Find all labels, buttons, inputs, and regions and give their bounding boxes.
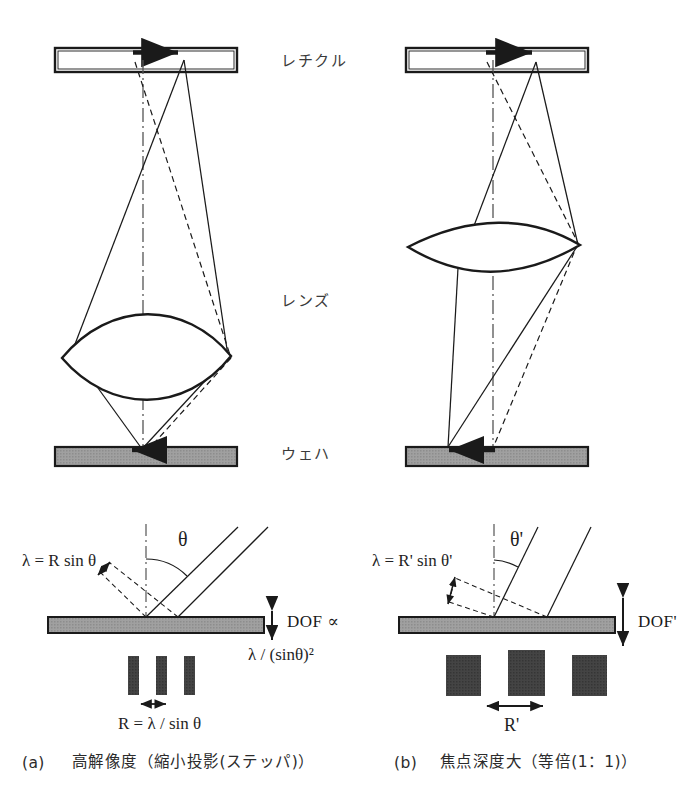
panel-b-optical-train (406, 48, 588, 466)
resolution-formula-a: R = λ / sin θ (118, 715, 201, 732)
ray-dashed-upper-b (487, 62, 578, 243)
lens-b (408, 223, 580, 272)
angle-symbol-b: θ' (510, 529, 523, 549)
lambda-arrow-a (98, 562, 110, 575)
formula-wavelength-b: λ = R' sin θ' (372, 552, 452, 569)
wavefront-dash-2-a (110, 563, 178, 617)
caption-index-a: (a) (22, 756, 45, 772)
pattern-bar (156, 656, 167, 695)
ray-solid-left-a (72, 60, 184, 352)
pattern-bar (128, 656, 139, 695)
wavefront-dash-1-a (100, 572, 146, 617)
figure-root: レチクル レンズ ウェハ λ = R sin θ θ DOF ∝ λ / (si… (0, 0, 694, 797)
dof-label-b: DOF' (638, 613, 677, 630)
pattern-bar (446, 655, 481, 696)
dof-expression-a: λ / (sinθ)² (248, 646, 314, 663)
angle-symbol-a: θ (178, 529, 188, 549)
resolution-formula-b: R' (504, 716, 519, 734)
component-label-wafer: ウェハ (281, 447, 331, 462)
caption-index-b: (b) (394, 756, 417, 772)
pattern-bar (508, 650, 545, 696)
component-label-lens: レンズ (281, 294, 331, 309)
lambda-arrow-b (448, 577, 455, 604)
wavefront-dash-2-b (455, 578, 547, 617)
pattern-bar (184, 656, 195, 695)
wafer-slab-a (48, 617, 264, 633)
lens-a (62, 314, 231, 400)
caption-text-b: 焦点深度大（等倍(1：1)） (440, 755, 637, 771)
pattern-bar (572, 655, 607, 696)
ray-dashed-lower-b (493, 243, 578, 448)
angle-arc-a (146, 559, 187, 576)
wafer-bar-b (406, 447, 588, 466)
ray-converge-right-b (448, 245, 578, 447)
ray-solid-right-b (536, 62, 578, 245)
formula-wavelength-a: λ = R sin θ (22, 552, 96, 569)
incident-ray-2-b (547, 527, 591, 617)
caption-text-a: 高解像度（縮小投影(ステッパ)） (72, 755, 315, 771)
wavefront-dash-1-b (449, 602, 494, 617)
optical-diagram-svg (0, 0, 694, 797)
panel-a-optical-train (55, 48, 237, 466)
wafer-slab-b (399, 617, 615, 633)
dof-label-a: DOF ∝ (287, 613, 339, 630)
ray-solid-right-a (184, 60, 228, 356)
angle-arc-b (494, 560, 518, 567)
ray-converge-left-b (448, 268, 458, 447)
component-label-reticle: レチクル (281, 54, 347, 69)
